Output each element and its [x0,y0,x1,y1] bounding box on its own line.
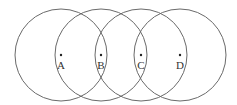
point-label-d: D [176,59,184,71]
points-group: ABCD [57,54,184,71]
circles-diagram: ABCD [0,0,237,105]
point-label-a: A [57,59,65,71]
circles-group [15,9,226,101]
center-point-d [179,54,181,56]
center-point-c [140,54,142,56]
point-label-c: C [137,59,144,71]
center-point-b [100,54,102,56]
center-point-a [60,54,62,56]
point-label-b: B [97,59,104,71]
